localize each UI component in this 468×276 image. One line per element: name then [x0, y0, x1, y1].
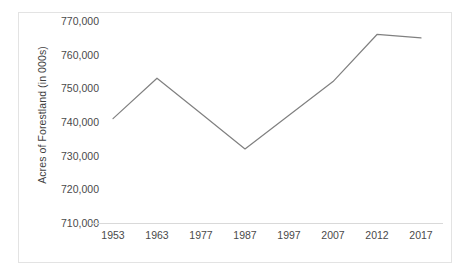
plot-area — [91, 21, 443, 223]
x-axis-tick-label: 1963 — [145, 229, 168, 241]
chart-container: Acres of Forestland (in 000s) 770,000760… — [18, 12, 452, 263]
data-series-line — [113, 34, 421, 148]
chart-plot-wrapper: Acres of Forestland (in 000s) 770,000760… — [19, 13, 451, 262]
data-line-svg — [91, 21, 443, 223]
x-axis-tick-label: 1977 — [189, 229, 212, 241]
x-axis-tick-label: 1987 — [233, 229, 256, 241]
x-axis-tick-label: 2007 — [321, 229, 344, 241]
x-axis-tick-labels: 19531963197719871997200720122017 — [91, 229, 443, 249]
x-axis-line — [91, 223, 443, 224]
x-axis-tick-label: 1997 — [277, 229, 300, 241]
x-axis-tick-label: 1953 — [101, 229, 124, 241]
x-axis-tick-label: 2017 — [409, 229, 432, 241]
x-axis-tick-label: 2012 — [365, 229, 388, 241]
